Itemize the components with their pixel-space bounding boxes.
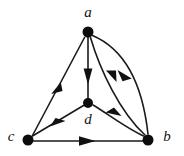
edge-a-to-b-path	[93, 36, 149, 135]
node-c[interactable]: c	[8, 128, 34, 145]
node-d-label: d	[84, 111, 92, 127]
edge-layer	[33, 36, 149, 146]
edge-a-to-d	[84, 38, 93, 99]
edge-d-to-c-arrowhead	[50, 118, 66, 127]
node-d[interactable]: d	[83, 98, 93, 127]
node-c-label: c	[8, 128, 15, 144]
node-b-dot[interactable]	[143, 135, 154, 146]
node-a-dot[interactable]	[83, 27, 94, 38]
edge-b-to-d-path	[93, 105, 144, 136]
graph-figure: a d c b	[0, 0, 184, 156]
node-c-dot[interactable]	[23, 135, 34, 146]
node-a-label: a	[84, 4, 92, 20]
edge-a-to-d-arrowhead	[84, 69, 93, 85]
directed-graph-canvas: a d c b	[0, 0, 184, 156]
node-d-dot[interactable]	[83, 98, 93, 108]
edge-a-to-b	[93, 36, 149, 135]
edge-c-to-b-arrowhead	[79, 136, 96, 145]
node-a[interactable]: a	[83, 4, 94, 37]
edge-a-to-b-arrowhead	[118, 70, 132, 81]
edge-c-to-a-arrowhead	[51, 82, 62, 94]
edge-c-to-b	[33, 136, 143, 145]
edge-b-to-d	[93, 105, 144, 136]
node-b-label: b	[163, 128, 171, 144]
node-b[interactable]: b	[143, 128, 172, 145]
